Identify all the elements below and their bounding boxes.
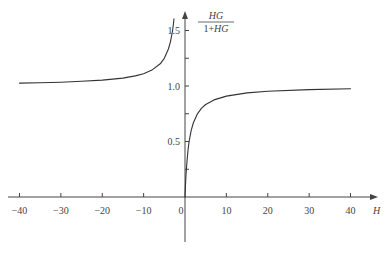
x-tick-label: −30 (53, 205, 69, 216)
curve-negative-h-branch (20, 19, 175, 83)
y-axis-arrow-icon (182, 11, 188, 19)
x-tick-label: −20 (94, 205, 110, 216)
curve-positive-h-branch (185, 89, 351, 197)
y-tick-label: 0.5 (168, 136, 181, 147)
x-tick-label: 0 (179, 205, 184, 216)
axis-labels: HG 1+HG H (198, 10, 381, 216)
axes: −40−30−20−100102030400.51.01.5 (8, 11, 378, 242)
y-axis-label-denominator: 1+HG (203, 23, 228, 34)
x-axis-arrow-icon (370, 194, 378, 200)
x-tick-label: −40 (12, 205, 28, 216)
y-axis-label-numerator: HG (208, 10, 223, 21)
x-tick-label: 20 (263, 205, 273, 216)
x-axis-label: H (372, 205, 381, 216)
y-tick-label: 1.0 (168, 81, 181, 92)
x-tick-label: 10 (221, 205, 231, 216)
y-tick-label: 1.5 (168, 25, 181, 36)
x-tick-label: −10 (136, 205, 152, 216)
x-tick-label: 40 (346, 205, 356, 216)
x-tick-label: 30 (304, 205, 314, 216)
plot-area: −40−30−20−100102030400.51.01.5 HG 1+HG H (0, 0, 389, 255)
